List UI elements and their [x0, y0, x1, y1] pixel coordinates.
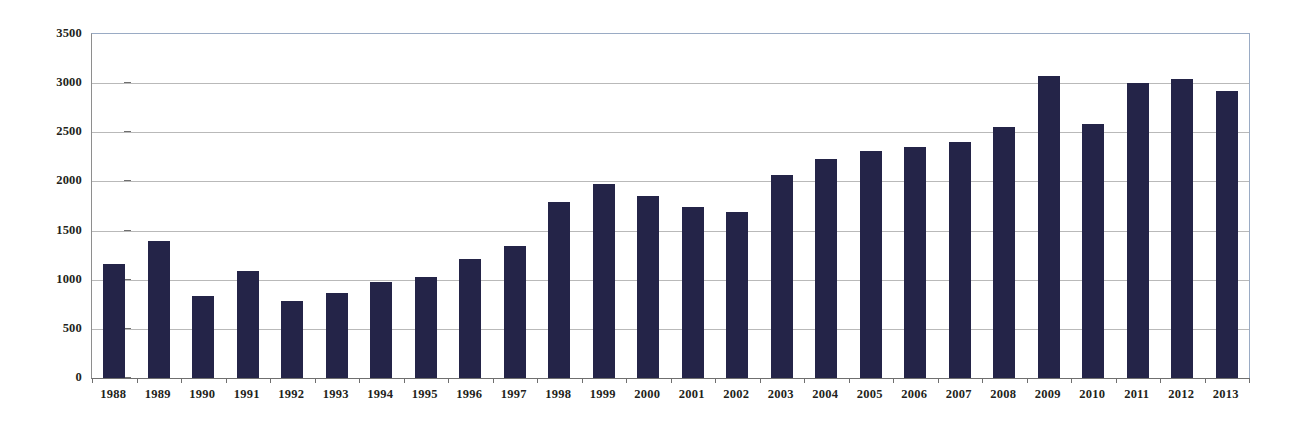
bar-slot	[938, 34, 983, 378]
bar-slot	[315, 34, 360, 378]
x-axis-labels: 1988198919901991199219931994199519961997…	[91, 387, 1248, 407]
x-axis-tick-label: 1995	[412, 387, 438, 402]
bar-slot	[448, 34, 493, 378]
bar[interactable]	[1038, 76, 1060, 378]
bar-slot	[181, 34, 226, 378]
bar-slot	[1071, 34, 1116, 378]
bar-slot	[582, 34, 627, 378]
x-axis-tick-label: 2009	[1035, 387, 1061, 402]
x-axis-tick-label: 2006	[901, 387, 927, 402]
x-axis-tick-label: 2008	[990, 387, 1016, 402]
bar[interactable]	[1082, 124, 1104, 378]
bar[interactable]	[815, 159, 837, 378]
bar[interactable]	[637, 196, 659, 378]
y-axis-labels: 0500100015002000250030003500	[40, 0, 82, 423]
bar[interactable]	[1171, 79, 1193, 378]
bar[interactable]	[237, 271, 259, 378]
x-axis-tick-mark	[582, 378, 583, 383]
bar[interactable]	[326, 293, 348, 378]
bar[interactable]	[682, 207, 704, 378]
x-axis-tick-mark	[671, 378, 672, 383]
x-axis-tick-label: 1989	[145, 387, 171, 402]
x-axis-tick-label: 2004	[812, 387, 838, 402]
y-axis-tick-label: 3000	[56, 75, 82, 90]
bar[interactable]	[904, 147, 926, 378]
bar[interactable]	[593, 184, 615, 378]
x-axis-tick-label: 2010	[1079, 387, 1105, 402]
bar[interactable]	[504, 246, 526, 378]
bar-slot	[493, 34, 538, 378]
x-axis-tick-mark	[1205, 378, 1206, 383]
y-axis-tick-label: 2500	[56, 124, 82, 139]
x-axis-tick-mark	[938, 378, 939, 383]
x-axis-tick-mark	[270, 378, 271, 383]
x-axis-tick-mark	[715, 378, 716, 383]
bar-slot	[1116, 34, 1161, 378]
x-axis-tick-label: 2001	[679, 387, 705, 402]
x-axis-tick-mark	[404, 378, 405, 383]
x-axis-tick-label: 1996	[456, 387, 482, 402]
x-axis-tick-mark	[804, 378, 805, 383]
y-axis-tick-label: 500	[63, 320, 82, 335]
x-axis-tick-mark	[315, 378, 316, 383]
y-axis-tick-label: 1000	[56, 271, 82, 286]
x-axis-tick-mark	[493, 378, 494, 383]
x-axis-tick-label: 2007	[946, 387, 972, 402]
bar-slot	[270, 34, 315, 378]
x-axis-tick-mark	[849, 378, 850, 383]
bar-slot	[92, 34, 137, 378]
y-axis-tick-label: 0	[76, 370, 82, 385]
bar-slot	[537, 34, 582, 378]
x-axis-tick-label: 1999	[590, 387, 616, 402]
bar[interactable]	[415, 277, 437, 378]
bar[interactable]	[993, 127, 1015, 378]
bar-chart: 0500100015002000250030003500 19881989199…	[0, 0, 1293, 423]
bar[interactable]	[281, 301, 303, 378]
x-axis-tick-label: 1992	[278, 387, 304, 402]
bar[interactable]	[1127, 83, 1149, 378]
bar[interactable]	[459, 259, 481, 378]
bar-slot	[626, 34, 671, 378]
plot-area	[91, 33, 1250, 379]
x-axis-tick-mark	[137, 378, 138, 383]
bar-slot	[359, 34, 404, 378]
bar-slot	[137, 34, 182, 378]
bar[interactable]	[771, 175, 793, 378]
x-axis-tick-mark	[982, 378, 983, 383]
bar-slot	[1205, 34, 1250, 378]
x-axis-tick-label: 1990	[189, 387, 215, 402]
x-axis-tick-mark	[226, 378, 227, 383]
bar-slot	[982, 34, 1027, 378]
x-axis-tick-label: 1993	[323, 387, 349, 402]
x-axis-tick-mark	[181, 378, 182, 383]
x-axis-tick-label: 1991	[234, 387, 260, 402]
bar[interactable]	[1216, 91, 1238, 378]
bar-slot	[760, 34, 805, 378]
x-axis-tick-label: 2012	[1168, 387, 1194, 402]
x-axis-tick-mark	[626, 378, 627, 383]
bar-slot	[226, 34, 271, 378]
x-axis-tick-label: 1988	[100, 387, 126, 402]
bar[interactable]	[370, 282, 392, 378]
bar[interactable]	[548, 202, 570, 378]
x-axis-tick-label: 2005	[857, 387, 883, 402]
x-axis-tick-mark	[1027, 378, 1028, 383]
bar-slot	[715, 34, 760, 378]
bar[interactable]	[860, 151, 882, 378]
bar[interactable]	[192, 296, 214, 378]
y-axis-tick-label: 2000	[56, 173, 82, 188]
x-axis-tick-label: 2013	[1213, 387, 1239, 402]
x-axis-tick-label: 2002	[723, 387, 749, 402]
y-axis-tick-label: 3500	[56, 26, 82, 41]
bar[interactable]	[103, 264, 125, 378]
x-axis-tick-label: 1997	[501, 387, 527, 402]
bar[interactable]	[148, 241, 170, 378]
x-axis-tick-mark	[448, 378, 449, 383]
bar-slot	[1027, 34, 1072, 378]
bar[interactable]	[726, 212, 748, 378]
x-axis-tick-label: 2000	[634, 387, 660, 402]
x-axis-tick-mark	[760, 378, 761, 383]
x-axis-tick-mark	[1160, 378, 1161, 383]
bar-slot	[893, 34, 938, 378]
bar[interactable]	[949, 142, 971, 378]
